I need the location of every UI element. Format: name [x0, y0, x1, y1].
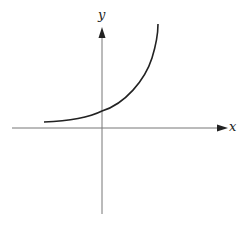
x-axis-label: x	[229, 120, 236, 133]
x-axis-arrow-icon	[217, 125, 228, 132]
graph-canvas	[0, 0, 243, 228]
exponential-curve	[44, 24, 158, 122]
y-axis-arrow-icon	[99, 27, 106, 38]
y-axis-label: y	[98, 8, 105, 21]
